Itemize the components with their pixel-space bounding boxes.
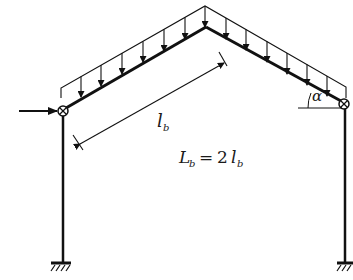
distributed-load bbox=[61, 6, 346, 98]
rafter-dimension-line bbox=[73, 52, 227, 150]
svg-text:2: 2 bbox=[217, 147, 228, 167]
svg-text:=: = bbox=[199, 147, 213, 167]
load-envelope bbox=[61, 6, 346, 98]
left-pin-joint-icon bbox=[58, 106, 68, 116]
left-fixed-support-icon bbox=[51, 263, 71, 271]
right-fixed-support-icon bbox=[337, 263, 353, 271]
svg-text:l: l bbox=[231, 147, 236, 167]
span-equation-label: L b = 2 l b bbox=[178, 147, 243, 169]
svg-text:b: b bbox=[237, 158, 243, 169]
rafter-length-label: l b bbox=[157, 110, 169, 133]
left-rafter bbox=[66, 27, 206, 108]
load-arrows-left bbox=[81, 6, 205, 97]
angle-label: α bbox=[312, 87, 322, 105]
svg-text:b: b bbox=[163, 122, 169, 133]
svg-text:b: b bbox=[189, 158, 195, 169]
portal-frame-diagram: α l b L b = 2 l b bbox=[0, 0, 353, 280]
